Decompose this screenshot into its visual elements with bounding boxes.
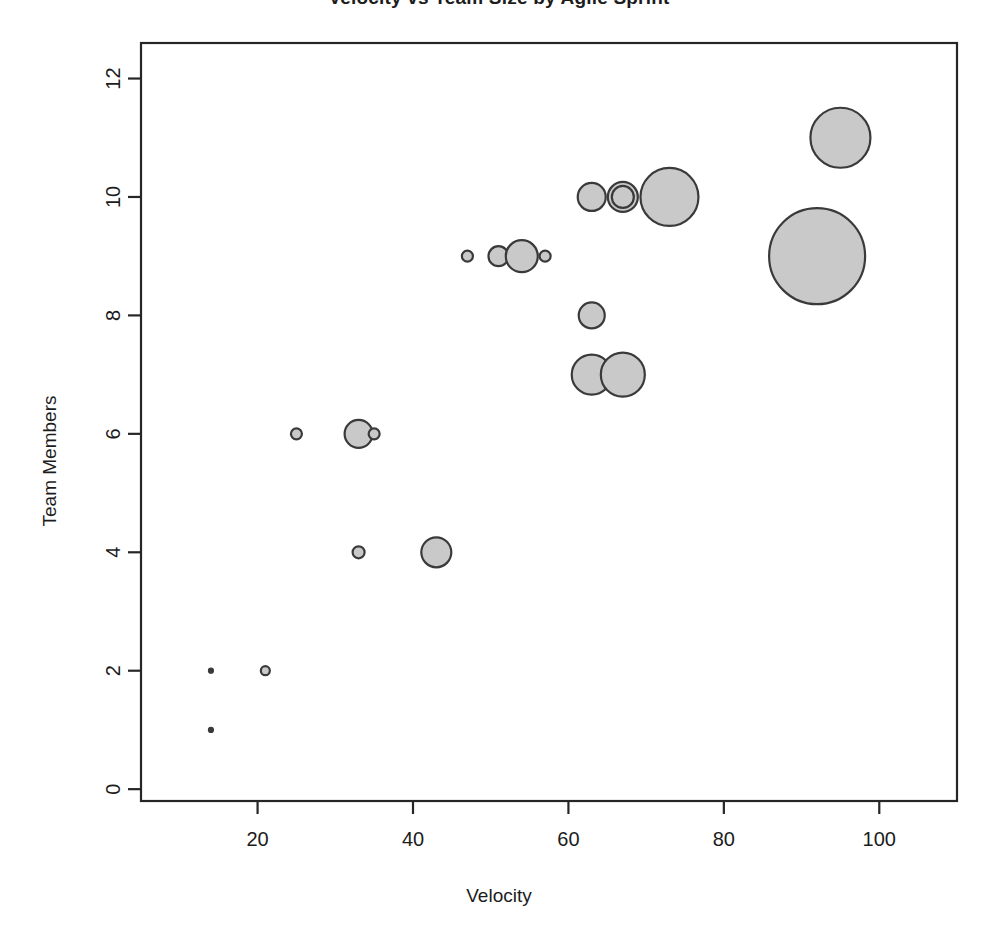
x-axis-title: Velocity <box>0 885 998 907</box>
data-point <box>810 108 870 168</box>
data-point <box>612 186 634 208</box>
data-point <box>579 302 605 328</box>
y-tick-label: 10 <box>102 186 124 208</box>
data-point <box>601 353 645 397</box>
y-tick-label: 2 <box>102 665 124 676</box>
y-axis-title: Team Members <box>39 361 61 561</box>
y-tick-label: 4 <box>102 547 124 558</box>
plot-area: 20406080100 024681012 <box>0 0 998 941</box>
x-axis-ticks: 20406080100 <box>246 801 896 850</box>
x-tick-label: 80 <box>713 828 735 850</box>
x-tick-label: 60 <box>557 828 579 850</box>
y-tick-label: 0 <box>102 784 124 795</box>
x-tick-label: 40 <box>402 828 424 850</box>
y-tick-label: 8 <box>102 310 124 321</box>
y-axis-ticks: 024681012 <box>102 67 141 794</box>
data-point <box>578 183 606 211</box>
data-point <box>421 537 451 567</box>
data-point <box>208 727 213 732</box>
data-point <box>462 251 473 262</box>
data-point <box>353 546 365 558</box>
data-point <box>769 208 865 304</box>
x-tick-label: 100 <box>863 828 896 850</box>
bubble-chart: Velocity vs Team Size by Agile Sprint 20… <box>0 0 998 941</box>
data-point <box>261 666 270 675</box>
data-point <box>369 428 380 439</box>
x-tick-label: 20 <box>246 828 268 850</box>
data-point <box>506 240 538 272</box>
data-point <box>208 668 213 673</box>
data-point <box>291 428 302 439</box>
data-point <box>540 251 551 262</box>
y-tick-label: 6 <box>102 428 124 439</box>
y-tick-label: 12 <box>102 67 124 89</box>
data-point <box>640 168 698 226</box>
